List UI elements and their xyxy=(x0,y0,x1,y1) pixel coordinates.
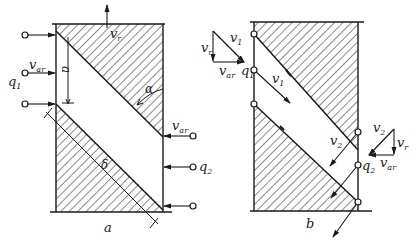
label-q2-b: q2 xyxy=(362,158,375,175)
label-delta: δ xyxy=(101,158,108,172)
panel-b xyxy=(213,22,394,237)
label-alpha: α xyxy=(145,82,153,96)
label-v2-flow: v2 xyxy=(330,133,342,150)
label-v2-triangle: v2 xyxy=(373,120,385,137)
label-v1-flow: v1 xyxy=(272,71,284,88)
label-var-triangle: var xyxy=(219,63,236,80)
label-dimension-a: a xyxy=(59,66,73,73)
label-q1: q1 xyxy=(8,74,21,91)
caption-a: a xyxy=(104,220,112,235)
right-inflow-arrows xyxy=(164,133,196,209)
label-vr-triangle-2: vr xyxy=(397,135,409,152)
label-v1-triangle: v1 xyxy=(230,30,242,47)
label-var-left: var xyxy=(29,57,46,74)
caption-b: b xyxy=(306,216,314,231)
label-q2: q2 xyxy=(199,159,212,176)
label-var-triangle-2: var xyxy=(380,155,397,172)
label-q1-b: q1 xyxy=(241,63,254,80)
diagram-canvas: vr var q1 var q2 a α δ a xyxy=(0,0,418,246)
label-vr-triangle: vr xyxy=(201,40,213,57)
label-var-right: var xyxy=(172,118,189,135)
panel-a xyxy=(22,5,196,228)
